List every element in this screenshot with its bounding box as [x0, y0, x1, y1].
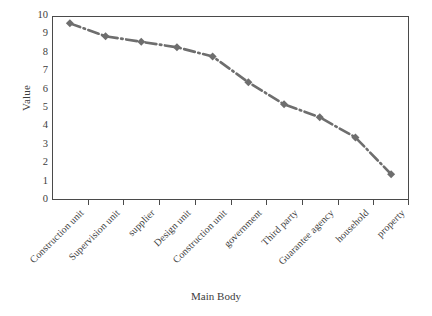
y-axis-tick-label: 7: [22, 65, 48, 76]
x-axis-tick-mark: [159, 200, 160, 205]
line-series: [66, 19, 395, 178]
x-axis-tick-mark: [266, 200, 267, 205]
y-axis-tick-label: 10: [22, 10, 48, 21]
x-axis-tick-mark: [123, 200, 124, 205]
x-axis-tick-mark: [373, 200, 374, 205]
y-axis-tick-label: 2: [22, 157, 48, 168]
x-axis-tick-label: supplier: [126, 207, 157, 238]
x-axis-tick-label: household: [334, 207, 371, 244]
y-axis-tick-label: 3: [22, 139, 48, 150]
chart-figure: Value 109876543210 Construction unitSupe…: [0, 0, 432, 316]
data-point-marker: [137, 38, 145, 46]
x-axis-tick-mark: [338, 200, 339, 205]
x-axis-tick-mark: [408, 200, 409, 205]
x-axis-title: Main Body: [0, 290, 432, 302]
y-axis-tick-label: 1: [22, 176, 48, 187]
x-axis-tick-mark: [88, 200, 89, 205]
x-axis-tick-mark: [231, 200, 232, 205]
x-axis-tick-mark: [302, 200, 303, 205]
y-axis-tick-label: 6: [22, 84, 48, 95]
y-axis-tick-label: 4: [22, 120, 48, 131]
x-axis-tick-label: property: [375, 207, 407, 239]
data-point-marker: [173, 43, 181, 51]
data-point-marker: [102, 32, 110, 40]
y-axis-tick-label: 0: [22, 194, 48, 205]
data-series-layer: [52, 16, 409, 200]
y-axis-tick-label: 8: [22, 47, 48, 58]
y-axis-tick-label: 5: [22, 102, 48, 113]
data-point-marker: [66, 19, 74, 27]
y-axis-tick-label: 9: [22, 28, 48, 39]
x-axis-tick-mark: [195, 200, 196, 205]
series-line: [70, 23, 391, 174]
